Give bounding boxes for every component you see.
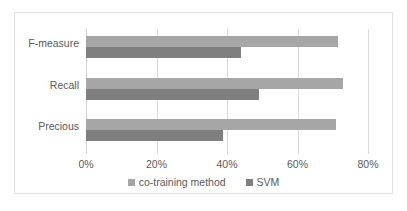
category-label: Precious — [38, 120, 79, 132]
legend-swatch-icon — [128, 179, 135, 186]
x-axis: 0%20%40%60%80% — [86, 158, 368, 174]
chart-container: F-measureRecallPrecious 0%20%40%60%80% c… — [14, 12, 393, 194]
bar-svm — [86, 47, 241, 58]
legend-swatch-icon — [246, 179, 253, 186]
chart-legend: co-training methodSVM — [15, 176, 392, 188]
bar-group: Precious — [86, 112, 368, 154]
gridline-80 — [368, 29, 369, 154]
legend-item: SVM — [246, 176, 280, 188]
bar-group: Recall — [86, 71, 368, 113]
category-label: F-measure — [28, 37, 79, 49]
legend-label: co-training method — [139, 176, 226, 188]
bar-svm — [86, 89, 259, 100]
x-tick-label: 60% — [287, 158, 308, 170]
bar-co-training-method — [86, 78, 343, 89]
bar-group: F-measure — [86, 29, 368, 71]
x-tick-label: 80% — [357, 158, 378, 170]
bar-co-training-method — [86, 119, 336, 130]
category-label: Recall — [50, 79, 79, 91]
x-tick-label: 20% — [146, 158, 167, 170]
legend-label: SVM — [257, 176, 280, 188]
x-tick-label: 0% — [78, 158, 93, 170]
plot-area: F-measureRecallPrecious — [86, 29, 368, 154]
x-tick-label: 40% — [216, 158, 237, 170]
bar-svm — [86, 130, 223, 141]
legend-item: co-training method — [128, 176, 226, 188]
bar-co-training-method — [86, 36, 338, 47]
